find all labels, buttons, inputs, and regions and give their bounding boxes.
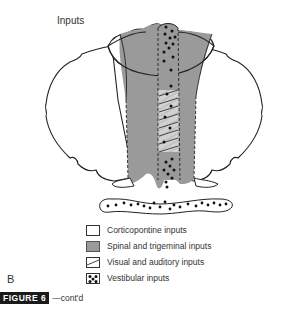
hatched-swatch-icon bbox=[86, 257, 100, 268]
left-hemisphere bbox=[45, 46, 130, 181]
legend-label: Spinal and trigeminal inputs bbox=[107, 241, 211, 251]
legend: Corticopontine inputs Spinal and trigemi… bbox=[86, 222, 211, 286]
legend-item-visual-auditory: Visual and auditory inputs bbox=[86, 254, 211, 270]
dotted-swatch-icon bbox=[86, 273, 100, 284]
legend-label: Corticopontine inputs bbox=[107, 225, 187, 235]
legend-label: Vestibular inputs bbox=[107, 273, 169, 283]
diagram-title: Inputs bbox=[57, 15, 84, 26]
panel-letter: B bbox=[7, 273, 14, 285]
right-flocculus bbox=[194, 178, 218, 187]
legend-item-spinal-trigeminal: Spinal and trigeminal inputs bbox=[86, 238, 211, 254]
gray-swatch-icon bbox=[86, 241, 100, 252]
figure-suffix: —cont'd bbox=[52, 293, 83, 303]
legend-label: Visual and auditory inputs bbox=[107, 257, 204, 267]
cerebellum-inputs-diagram: Inputs Corticopontine inputs Spinal and … bbox=[0, 0, 307, 316]
legend-item-corticopontine: Corticopontine inputs bbox=[86, 222, 211, 238]
legend-item-vestibular: Vestibular inputs bbox=[86, 270, 211, 286]
figure-badge: FIGURE 6 bbox=[0, 292, 49, 304]
figure-caption: FIGURE 6 —cont'd bbox=[0, 292, 83, 304]
white-swatch-icon bbox=[86, 225, 100, 236]
